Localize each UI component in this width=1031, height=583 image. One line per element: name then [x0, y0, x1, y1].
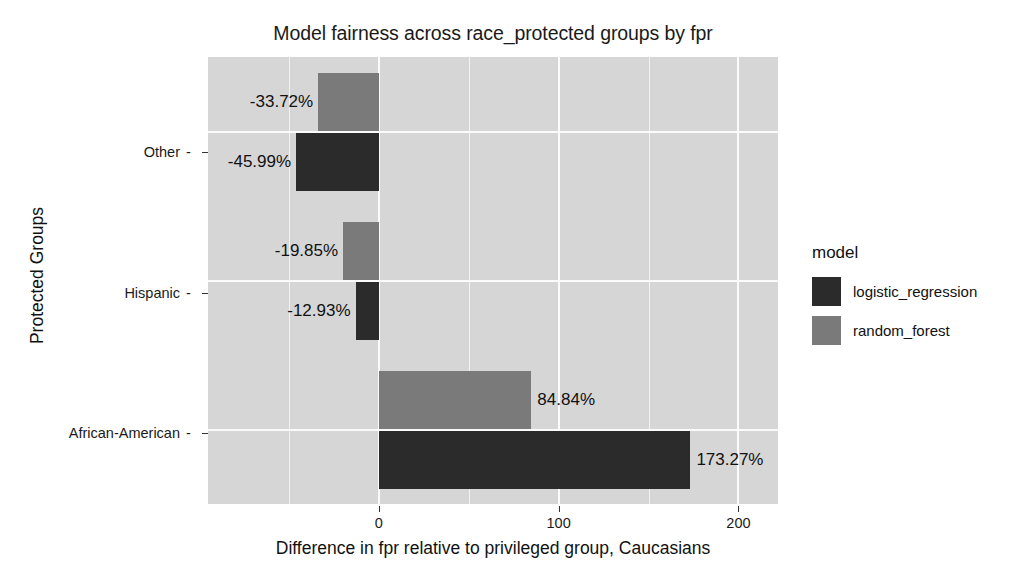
chart-title: Model fairness across race_protected gro…: [208, 22, 778, 45]
legend-label-random-forest: random_forest: [853, 322, 950, 339]
x-tick-mark: [559, 506, 560, 512]
plot-area: -45.99%-12.93%173.27%-33.72%-19.85%84.84…: [208, 57, 778, 504]
x-tick-label: 100: [547, 515, 571, 531]
x-tick-label: 0: [375, 515, 383, 531]
bar-value-label: -12.93%: [208, 302, 356, 319]
bar-value-label: 84.84%: [537, 391, 595, 408]
y-tick-dash-other: -: [186, 144, 198, 160]
legend-label-logistic-regression: logistic_regression: [853, 283, 977, 300]
x-tick-mark: [738, 506, 739, 512]
y-tick-label-african-american: African-American: [40, 425, 180, 441]
chart-figure: Model fairness across race_protected gro…: [0, 0, 1031, 583]
bar-logistic_regression-african-american: [379, 431, 691, 489]
legend-swatch-logistic-regression: [812, 277, 841, 306]
gridline-horizontal: [208, 131, 778, 133]
y-tick-label-hispanic: Hispanic: [60, 285, 180, 301]
legend-item-logistic-regression[interactable]: logistic_regression: [812, 277, 977, 306]
bar-value-label: -45.99%: [208, 153, 296, 170]
bar-logistic_regression-other: [296, 133, 379, 191]
legend-item-random-forest[interactable]: random_forest: [812, 316, 977, 345]
x-axis-label: Difference in fpr relative to privileged…: [208, 538, 778, 559]
bar-random_forest-hispanic: [343, 222, 379, 280]
x-tick-mark: [379, 506, 380, 512]
x-tick-label: 200: [726, 515, 750, 531]
gridline-horizontal: [208, 280, 778, 282]
bar-value-label: -19.85%: [208, 242, 343, 259]
y-tick-label-other: Other: [60, 144, 180, 160]
legend-title: model: [812, 243, 977, 263]
y-tick-dash-african-american: -: [186, 425, 198, 441]
bar-random_forest-other: [318, 73, 379, 131]
bar-value-label: 173.27%: [696, 451, 763, 468]
y-tick-mark-hispanic: [202, 293, 208, 294]
y-tick-dash-hispanic: -: [186, 285, 198, 301]
y-tick-mark-other: [202, 152, 208, 153]
y-axis-label: Protected Groups: [27, 176, 48, 376]
bar-random_forest-african-american: [379, 371, 532, 429]
legend: model logistic_regression random_forest: [812, 243, 977, 355]
y-tick-mark-african-american: [202, 433, 208, 434]
legend-swatch-random-forest: [812, 316, 841, 345]
bar-value-label: -33.72%: [208, 93, 318, 110]
bar-logistic_regression-hispanic: [356, 282, 379, 340]
